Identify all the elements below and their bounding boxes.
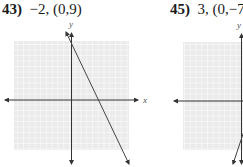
graphs-canvas: x y y — [0, 0, 243, 167]
graph-43-x-label: x — [142, 95, 147, 105]
graph-45-y-label: y — [236, 20, 241, 30]
graph-43-y-label: y — [68, 19, 73, 29]
graph-45-grid — [183, 42, 243, 150]
graph-43: x y — [5, 19, 147, 164]
graph-45: y — [174, 20, 243, 164]
